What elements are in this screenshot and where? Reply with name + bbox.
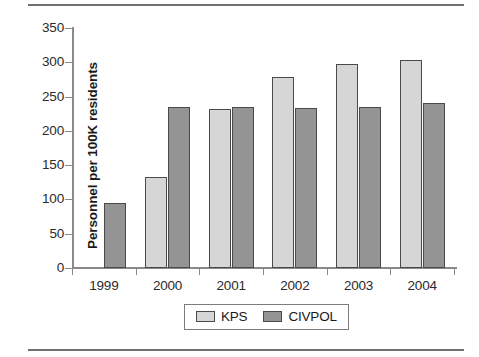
bar-civpol-2003 xyxy=(359,107,381,268)
bar-kps-2004 xyxy=(400,60,422,268)
x-tick-label: 2004 xyxy=(392,278,452,293)
y-tick-mark xyxy=(65,165,72,166)
x-tick-mark xyxy=(327,269,328,275)
x-tick-label: 2000 xyxy=(138,278,198,293)
legend-entry-kps[interactable]: KPS xyxy=(196,309,247,324)
x-tick-mark xyxy=(199,269,200,275)
x-tick-mark xyxy=(454,269,455,275)
x-tick-label: 2002 xyxy=(265,278,325,293)
y-tick-mark xyxy=(65,131,72,132)
chart-legend: KPSCIVPOL xyxy=(184,304,349,330)
y-tick-mark xyxy=(65,97,72,98)
bar-civpol-1999 xyxy=(104,203,126,268)
legend-label-kps: KPS xyxy=(221,309,247,324)
y-tick-mark xyxy=(65,268,72,269)
y-tick-label: 200 xyxy=(24,123,64,138)
y-tick-label: 0 xyxy=(24,260,64,275)
x-tick-mark xyxy=(72,269,73,275)
y-tick-mark xyxy=(65,62,72,63)
y-tick-label: 300 xyxy=(24,54,64,69)
x-tick-mark xyxy=(390,269,391,275)
bar-civpol-2002 xyxy=(295,108,317,268)
top-rule xyxy=(28,4,464,6)
y-tick-mark xyxy=(65,28,72,29)
legend-label-civpol: CIVPOL xyxy=(288,309,336,324)
legend-swatch-kps xyxy=(196,311,215,322)
y-tick-label: 100 xyxy=(24,191,64,206)
bar-kps-2002 xyxy=(272,77,294,268)
legend-swatch-civpol xyxy=(263,311,282,322)
y-tick-mark xyxy=(65,234,72,235)
y-tick-mark xyxy=(65,199,72,200)
legend-entry-civpol[interactable]: CIVPOL xyxy=(263,309,336,324)
y-tick-label: 150 xyxy=(24,157,64,172)
bar-civpol-2001 xyxy=(232,107,254,268)
bar-kps-2001 xyxy=(209,109,231,268)
x-tick-mark xyxy=(263,269,264,275)
figure-container: Personnel per 100K residents 05010015020… xyxy=(0,0,479,357)
bar-civpol-2000 xyxy=(168,107,190,268)
y-tick-label: 250 xyxy=(24,89,64,104)
y-tick-label: 50 xyxy=(24,226,64,241)
y-tick-label: 350 xyxy=(24,20,64,35)
x-tick-mark xyxy=(136,269,137,275)
bar-kps-2003 xyxy=(336,64,358,268)
x-tick-label: 1999 xyxy=(74,278,134,293)
bottom-rule xyxy=(28,349,464,351)
x-tick-label: 2003 xyxy=(329,278,389,293)
bar-kps-2000 xyxy=(145,177,167,268)
plot-area xyxy=(72,28,454,268)
x-tick-label: 2001 xyxy=(201,278,261,293)
bar-civpol-2004 xyxy=(423,103,445,268)
